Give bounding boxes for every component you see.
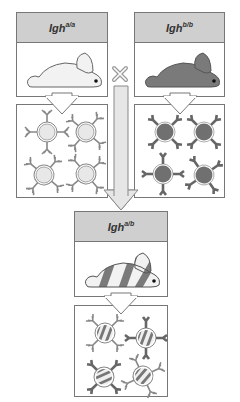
- arrow-offspring-down: [0, 0, 240, 402]
